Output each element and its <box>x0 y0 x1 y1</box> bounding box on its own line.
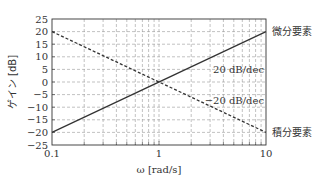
svg-text:−20: −20 <box>27 127 48 138</box>
svg-text:5: 5 <box>42 64 48 75</box>
svg-text:0: 0 <box>42 77 48 88</box>
y-axis-label: ゲイン [dB] <box>7 55 18 109</box>
bode-gain-chart: 25 20 15 10 5 0 −5 −10 −15 −20 −25 0.1 1… <box>0 0 328 180</box>
svg-text:1: 1 <box>156 148 162 159</box>
svg-text:0.1: 0.1 <box>44 148 60 159</box>
svg-text:−15: −15 <box>27 114 48 125</box>
series-label-integrator: 積分要素 <box>272 126 312 138</box>
y-tick-labels: 25 20 15 10 5 0 −5 −10 −15 −20 −25 <box>27 14 48 151</box>
svg-text:25: 25 <box>35 14 48 25</box>
svg-text:10: 10 <box>260 148 273 159</box>
svg-text:20: 20 <box>35 26 48 37</box>
x-axis-label: ω [rad/s] <box>137 164 182 175</box>
series-label-differentiator: 微分要素 <box>272 25 312 37</box>
slope-label-negative: −20 dB/dec <box>205 95 265 106</box>
svg-text:15: 15 <box>35 39 48 50</box>
x-tick-labels: 0.1 1 10 <box>44 148 272 159</box>
svg-text:−10: −10 <box>27 102 48 113</box>
svg-text:−5: −5 <box>33 89 48 100</box>
slope-label-positive: 20 dB/dec <box>213 64 264 75</box>
svg-text:10: 10 <box>35 51 48 62</box>
